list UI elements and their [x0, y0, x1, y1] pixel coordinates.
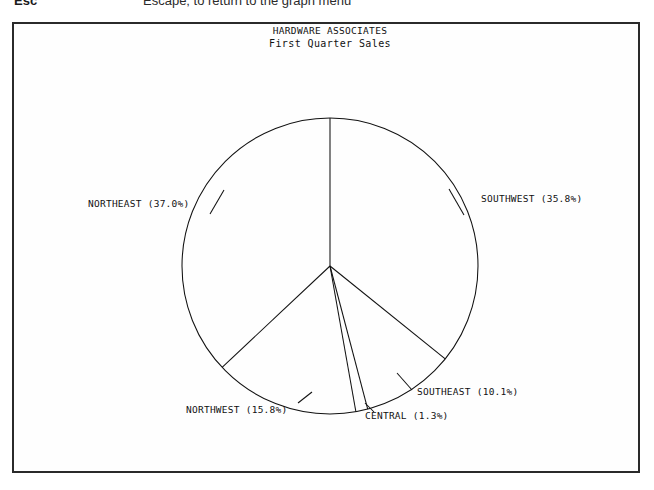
pie-slice-dividers — [222, 118, 445, 412]
pie-slice-labels: SOUTHWEST (35.8%)SOUTHEAST (10.1%)CENTRA… — [88, 193, 582, 421]
pie-slice-label-central: CENTRAL (1.3%) — [365, 410, 449, 421]
chart-frame: HARDWARE ASSOCIATES First Quarter Sales … — [12, 22, 640, 473]
pie-slice-divider — [330, 266, 368, 409]
pie-slice-divider — [222, 266, 330, 367]
pie-slice-label-northeast: NORTHEAST (37.0%) — [88, 198, 189, 209]
escape-key-label: Esc — [14, 0, 37, 8]
pie-chart: HARDWARE ASSOCIATES First Quarter Sales … — [14, 24, 638, 471]
chart-title: HARDWARE ASSOCIATES — [273, 25, 387, 36]
escape-key-description: Escape; to return to the graph menu — [143, 0, 351, 8]
pie-slice-label-southeast: SOUTHEAST (10.1%) — [417, 386, 518, 397]
pie-leader-line — [298, 392, 312, 403]
pie-leader-line — [449, 189, 464, 215]
pie-leader-line — [397, 373, 412, 390]
pie-slice-label-northwest: NORTHWEST (15.8%) — [186, 404, 287, 415]
pie-slice-divider — [330, 266, 445, 359]
pie-leader-line — [210, 190, 224, 214]
pie-slice-divider — [330, 266, 356, 412]
chart-subtitle: First Quarter Sales — [269, 38, 391, 49]
pie-slice-label-southwest: SOUTHWEST (35.8%) — [481, 193, 582, 204]
help-bar: Esc Escape; to return to the graph menu — [0, 0, 654, 14]
